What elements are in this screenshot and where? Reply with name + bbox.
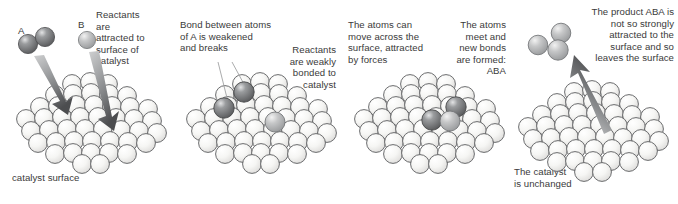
caption-weakly-bonded: Reactants are weakly bonded to catalyst [266, 44, 336, 90]
desorption-arrow [570, 55, 612, 134]
label-reactant-a: A [18, 26, 24, 36]
leader-lines [218, 62, 245, 102]
caption-atoms-meet: The atoms meet and new bonds are formed:… [444, 19, 506, 77]
panel-adsorption: A B Reactants are attracted to surface o… [0, 0, 170, 204]
reactant-b-atom [78, 31, 95, 48]
panel-bond-breaking: Bond between atoms of A is weakened and … [170, 0, 340, 204]
adsorption-arrow-a [34, 55, 73, 115]
caption-catalyst-surface: catalyst surface [12, 172, 132, 184]
adsorbed-atom-b [265, 112, 285, 132]
catalysis-diagram: A B Reactants are attracted to surface o… [0, 0, 678, 204]
catalyst-lattice [355, 73, 505, 174]
product-aba-on-surface [422, 97, 466, 131]
adsorbed-atom-a1 [234, 82, 254, 102]
caption-reactants-attracted: Reactants are attracted to surface of ca… [96, 9, 170, 67]
panel-surface-diffusion: The atoms can move across the surface, a… [340, 0, 508, 204]
caption-product-leaves: The product ABA is not so strongly attra… [552, 6, 674, 64]
catalyst-lattice [17, 73, 167, 174]
caption-catalyst-unchanged: The catalyst is unchanged [514, 166, 610, 189]
caption-atoms-move: The atoms can move across the surface, a… [348, 19, 448, 65]
label-reactant-b: B [78, 20, 84, 30]
adsorbed-atom-a2 [214, 98, 234, 118]
panel-desorption: The product ABA is not so strongly attra… [508, 0, 678, 204]
